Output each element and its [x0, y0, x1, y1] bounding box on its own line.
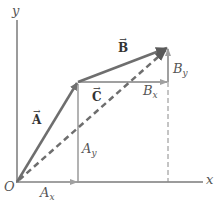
- diagram-canvas: [0, 0, 220, 208]
- ay-label: Ay: [82, 142, 96, 155]
- vector-diagram: y x O → A → B → C Ax Ay Bx By: [0, 0, 220, 208]
- vector-a: [17, 83, 77, 182]
- vector-c-label: → C: [92, 91, 102, 103]
- x-axis-label: x: [206, 173, 213, 186]
- bx-label: Bx: [143, 84, 158, 97]
- vector-b-label: → B: [118, 42, 128, 54]
- y-axis-label: y: [12, 4, 19, 17]
- vector-a-label: → A: [32, 114, 41, 126]
- by-label: By: [173, 62, 188, 75]
- origin-label: O: [4, 180, 15, 193]
- ax-label: Ax: [40, 186, 54, 199]
